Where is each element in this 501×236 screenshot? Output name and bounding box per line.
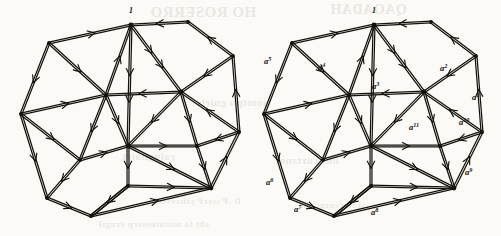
edge-label-a9: a9	[465, 166, 472, 177]
edge-label-exponent: 1	[476, 91, 479, 98]
edge-label-a2: a2	[440, 62, 447, 73]
edge-label-exponent: 4	[321, 61, 325, 68]
edge-label-exponent: 11	[413, 121, 419, 128]
panel-left-unlabeled	[19, 20, 241, 218]
edge-label-a10: a10	[459, 116, 469, 127]
edge-label-exponent: 3	[375, 80, 379, 87]
edge-label-exponent: 5	[268, 55, 271, 62]
edge-label-a8: a8	[371, 206, 378, 217]
edge-label-exponent: 10	[463, 116, 469, 123]
panel-left-labels: 1	[129, 6, 133, 15]
edge-label-a6: a6	[266, 176, 274, 187]
edge-label-exponent: 8	[375, 206, 378, 213]
panel-right-labeled	[262, 20, 484, 218]
edge-label-a3: a3	[372, 80, 379, 91]
figure-root: HO ROSERROQAOADAHaomtpu gnirbralugnairtn…	[0, 0, 501, 236]
edge-label-exponent: 9	[469, 166, 472, 173]
directed-graph-diagram: 1 1a1a2a3a4a5a6a7a8a9a10a11	[0, 0, 501, 236]
vertex-label-identity: 1	[372, 6, 376, 15]
edge-label-exponent: 6	[270, 176, 274, 183]
vertex-label-identity: 1	[129, 6, 133, 15]
edge-label-a5: a5	[264, 55, 271, 66]
edge-label-a11: a11	[409, 121, 419, 132]
edge-label-exponent: 2	[443, 62, 447, 69]
edge-label-a7: a7	[294, 203, 302, 214]
